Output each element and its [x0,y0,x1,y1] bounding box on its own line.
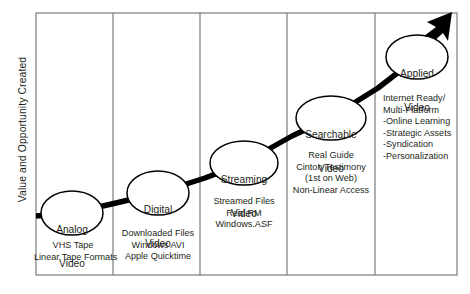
stage-ellipse-streaming-video [210,141,278,185]
stage-ellipse-digital-video [127,171,189,215]
diagram-canvas [0,0,470,294]
value-evolution-diagram: Value and Opportunity Created Analo [0,0,470,294]
trend-line [36,29,440,216]
stage-ellipse-analog-video [41,191,103,235]
stage-ellipse-applied-video [386,35,448,79]
stage-ellipse-searchable-video [296,96,366,140]
